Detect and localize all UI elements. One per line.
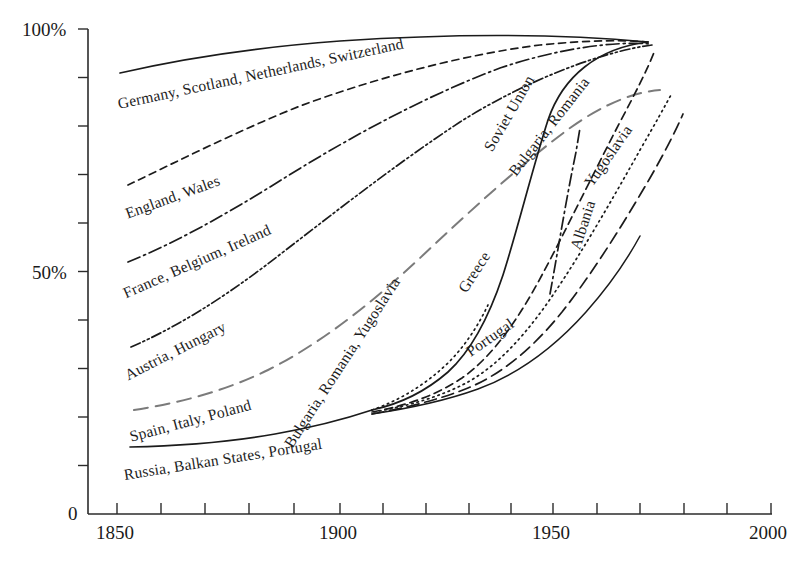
y-axis-label-100: 100% bbox=[22, 19, 66, 41]
x-axis-label-1900: 1900 bbox=[319, 522, 357, 544]
y-axis-ticks bbox=[78, 29, 88, 466]
y-axis-label-50: 50% bbox=[32, 262, 67, 284]
x-axis-ticks bbox=[117, 503, 771, 514]
x-axis-label-1950: 1950 bbox=[532, 522, 570, 544]
x-axis-label-2000: 2000 bbox=[749, 522, 787, 544]
chart-container: 100% 50% 0 1850 1900 1950 2000 Germany, … bbox=[0, 0, 806, 573]
x-axis-label-1850: 1850 bbox=[96, 522, 134, 544]
y-axis-label-0: 0 bbox=[68, 503, 78, 525]
